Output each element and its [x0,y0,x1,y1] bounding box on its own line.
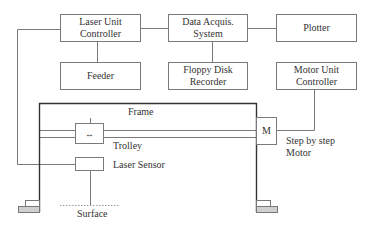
floppy-disk-recorder-label: Floppy Disk Recorder [183,64,233,88]
right-foot [257,201,278,213]
floppy-disk-recorder-box: Floppy Disk Recorder [168,62,248,90]
trolley-box: ↔ [75,123,104,144]
data-acquisition-system-box: Data Acquis. System [168,14,248,42]
feeder-label: Feeder [87,70,114,82]
laser-sensor-label: Laser Sensor [113,159,165,171]
bidirectional-arrow-icon: ↔ [85,128,94,140]
frame-label: Frame [128,106,154,118]
trolley-label: Trolley [113,140,142,152]
step-motor-label: Step by step Motor [286,135,335,159]
laser-unit-controller-label: Laser Unit Controller [79,16,122,40]
plotter-box: Plotter [276,14,357,42]
laser-sensor-box [75,157,104,171]
surface-label: Surface [77,208,108,220]
data-acquisition-system-label: Data Acquis. System [182,16,234,40]
motor-unit-controller-label: Motor Unit Controller [294,64,339,88]
motor-box: M [256,117,277,145]
motor-unit-controller-box: Motor Unit Controller [276,62,357,90]
feeder-box: Feeder [60,62,141,90]
plotter-label: Plotter [303,22,330,34]
laser-unit-controller-box: Laser Unit Controller [60,14,141,42]
motor-symbol: M [262,125,271,137]
left-foot [19,201,40,213]
